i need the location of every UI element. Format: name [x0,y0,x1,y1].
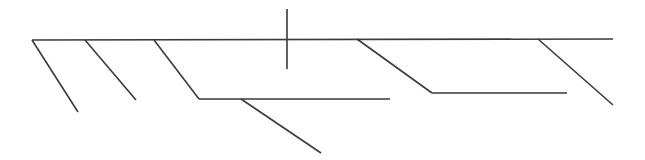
branch-5-line [538,39,613,105]
branch-4-diagonal-line [357,39,432,93]
diagram-canvas [0,0,645,160]
branch-2-line [85,40,136,100]
line-diagram [0,0,645,160]
branch-3-sub-line [241,99,321,153]
branch-1-line [32,40,78,112]
branch-3-diagonal-line [154,40,199,99]
main-spine-line [32,39,613,40]
